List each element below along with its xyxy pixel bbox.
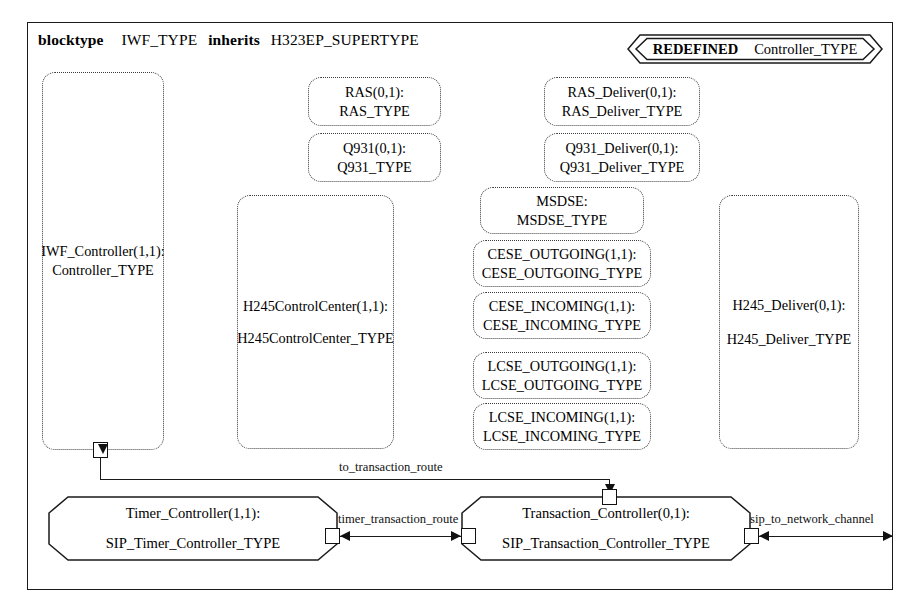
diagram-canvas: blocktype IWF_TYPE inherits H323EP_SUPER… [0, 0, 917, 607]
controller-label-line2: SIP_Transaction_Controller_TYPE [502, 535, 710, 552]
controller-timer-controller[interactable]: Timer_Controller(1,1): SIP_Timer_Control… [48, 496, 338, 561]
component-ras[interactable]: RAS(0,1): RAS_TYPE [308, 77, 441, 126]
component-q931[interactable]: Q931(0,1): Q931_TYPE [308, 133, 441, 182]
component-label-line2: MSDSE_TYPE [517, 211, 608, 230]
controller-label-line2: SIP_Timer_Controller_TYPE [106, 535, 281, 552]
arrow-down-iwf-port [98, 444, 108, 454]
component-label-line2: RAS_Deliver_TYPE [562, 102, 683, 121]
component-label-line2: Controller_TYPE [52, 261, 154, 280]
component-lcse-outgoing[interactable]: LCSE_OUTGOING(1,1): LCSE_OUTGOING_TYPE [473, 352, 651, 399]
component-label-line2: H245_Deliver_TYPE [727, 330, 852, 349]
supertype-name: H323EP_SUPERTYPE [271, 31, 419, 48]
arrow-right-sip-channel [883, 531, 893, 541]
wire-timer-transaction-route [340, 536, 461, 537]
controller-label-line1: Transaction_Controller(0,1): [522, 505, 690, 522]
component-iwf-controller[interactable]: IWF_Controller(1,1): Controller_TYPE [42, 72, 164, 450]
component-label-line1: H245_Deliver(0,1): [732, 296, 845, 315]
component-label-line2: RAS_TYPE [339, 102, 410, 121]
controller-transaction-controller-text: Transaction_Controller(0,1): SIP_Transac… [461, 496, 751, 561]
component-q931-deliver[interactable]: Q931_Deliver(0,1): Q931_Deliver_TYPE [544, 133, 700, 182]
port-transaction-controller-top[interactable] [602, 489, 617, 505]
blocktype-header: blocktype IWF_TYPE inherits H323EP_SUPER… [38, 31, 419, 49]
redefined-value: Controller_TYPE [754, 41, 857, 58]
component-label-line2: Q931_Deliver_TYPE [560, 158, 685, 177]
controller-label-line1: Timer_Controller(1,1): [126, 505, 260, 522]
component-ras-deliver[interactable]: RAS_Deliver(0,1): RAS_Deliver_TYPE [544, 77, 700, 126]
component-msdse[interactable]: MSDSE: MSDSE_TYPE [480, 187, 644, 234]
component-label-line2: H245ControlCenter_TYPE [237, 329, 393, 348]
redefined-badge: REDEFINED Controller_TYPE [627, 34, 883, 64]
wire-to-transaction-route-v1 [100, 458, 101, 480]
component-label-line1: RAS(0,1): [345, 83, 404, 102]
redefined-badge-text: REDEFINED Controller_TYPE [627, 34, 883, 64]
component-label-line1: Q931(0,1): [343, 139, 406, 158]
component-h245-deliver[interactable]: H245_Deliver(0,1): H245_Deliver_TYPE [719, 195, 859, 449]
component-label-line2: LCSE_OUTGOING_TYPE [482, 376, 642, 395]
component-lcse-incoming[interactable]: LCSE_INCOMING(1,1): LCSE_INCOMING_TYPE [473, 403, 651, 450]
controller-transaction-controller[interactable]: Transaction_Controller(0,1): SIP_Transac… [461, 496, 751, 561]
component-h245controlcenter[interactable]: H245ControlCenter(1,1): H245ControlCente… [237, 195, 394, 449]
component-label-line1: H245ControlCenter(1,1): [243, 297, 388, 316]
component-label-line1: CESE_OUTGOING(1,1): [488, 245, 637, 264]
wire-sip-to-network-channel [759, 536, 893, 537]
blocktype-name: IWF_TYPE [121, 31, 197, 48]
controller-timer-controller-text: Timer_Controller(1,1): SIP_Timer_Control… [48, 496, 338, 561]
port-transaction-controller-right[interactable] [744, 528, 759, 544]
component-label-line1: Q931_Deliver(0,1): [565, 139, 678, 158]
component-label-line1: MSDSE: [536, 192, 588, 211]
component-label-line2: Q931_TYPE [337, 158, 412, 177]
component-label-line2: LCSE_INCOMING_TYPE [483, 427, 641, 446]
component-cese-outgoing[interactable]: CESE_OUTGOING(1,1): CESE_OUTGOING_TYPE [473, 240, 651, 287]
component-cese-incoming[interactable]: CESE_INCOMING(1,1): CESE_INCOMING_TYPE [473, 292, 651, 339]
arrow-right-timer-route [451, 531, 461, 541]
blocktype-keyword: blocktype [38, 31, 104, 48]
arrow-left-timer-route [340, 531, 350, 541]
channel-label-timer-transaction-route: timer_transaction_route [338, 512, 458, 527]
inherits-keyword: inherits [208, 31, 260, 48]
component-label-line2: CESE_OUTGOING_TYPE [482, 264, 642, 283]
channel-label-sip-to-network-channel: sip_to_network_channel [750, 512, 874, 527]
wire-to-transaction-route-h [100, 479, 610, 480]
component-label-line1: RAS_Deliver(0,1): [567, 83, 676, 102]
component-label-line1: LCSE_INCOMING(1,1): [489, 408, 636, 427]
component-label-line1: CESE_INCOMING(1,1): [489, 297, 636, 316]
port-transaction-controller-left[interactable] [461, 528, 476, 544]
component-label-line1: LCSE_OUTGOING(1,1): [488, 357, 637, 376]
port-timer-controller-right[interactable] [325, 528, 340, 544]
component-label-line2: CESE_INCOMING_TYPE [483, 316, 641, 335]
arrow-left-sip-channel [759, 531, 769, 541]
component-label-line1: IWF_Controller(1,1): [41, 242, 165, 261]
redefined-keyword: REDEFINED [653, 41, 738, 58]
channel-label-to-transaction-route: to_transaction_route [339, 460, 443, 475]
